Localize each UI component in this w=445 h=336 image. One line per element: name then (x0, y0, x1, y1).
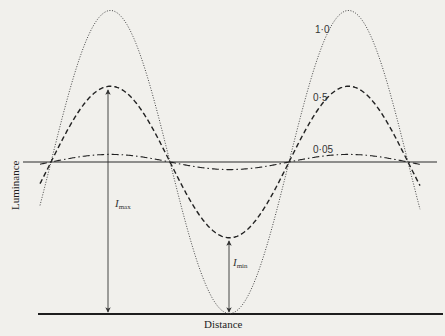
x-axis-label: Distance (204, 318, 242, 330)
y-axis-label: Luminance (9, 161, 21, 210)
imin-label: Imin (233, 256, 248, 270)
curve-label-0-5: 0·5 (313, 92, 327, 103)
curve-label-0-05: 0·05 (313, 144, 333, 155)
curve-label-1-0: 1·0 (315, 24, 329, 35)
imin-subscript: min (237, 262, 248, 270)
imax-label: Imax (115, 197, 131, 211)
imax-subscript: max (119, 203, 131, 211)
contrast-grating-figure (0, 0, 445, 336)
